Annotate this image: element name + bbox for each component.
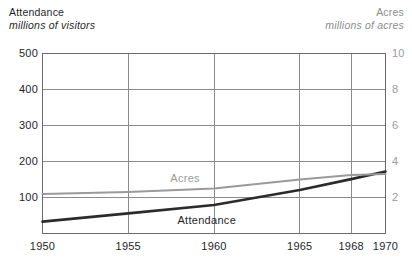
left-tick-400: 400 xyxy=(4,83,38,95)
x-tick-1960: 1960 xyxy=(194,240,234,252)
x-tick-1955: 1955 xyxy=(108,240,148,252)
right-tick-2: 2 xyxy=(392,191,398,203)
right-tick-8: 8 xyxy=(392,83,398,95)
gridlines xyxy=(43,54,386,234)
chart-container: Attendance millions of visitors Acres mi… xyxy=(0,0,412,267)
right-tick-4: 4 xyxy=(392,155,398,167)
left-tick-300: 300 xyxy=(4,119,38,131)
x-tick-1970: 1970 xyxy=(366,240,406,252)
x-tick-1950: 1950 xyxy=(23,240,63,252)
x-tick-1965: 1965 xyxy=(280,240,320,252)
right-tick-6: 6 xyxy=(392,119,398,131)
series-label-acres: Acres xyxy=(170,172,200,184)
right-tick-10: 10 xyxy=(392,47,405,59)
left-tick-200: 200 xyxy=(4,155,38,167)
series-label-attendance: Attendance xyxy=(177,214,236,226)
left-tick-100: 100 xyxy=(4,191,38,203)
plot-area xyxy=(0,0,412,267)
left-tick-500: 500 xyxy=(4,47,38,59)
